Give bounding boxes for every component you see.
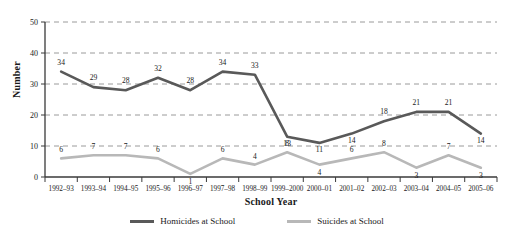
x-axis-tick-label: 1998–99 [242, 185, 268, 193]
data-label-homicides: 14 [477, 136, 485, 145]
x-axis-tick-label: 1992–93 [49, 185, 75, 193]
chart-legend: Homicides at School Suicides at School [0, 216, 514, 226]
y-axis-tick-label: 10 [30, 142, 38, 151]
x-axis-tick-label: 1999–2000 [271, 185, 304, 193]
data-label-homicides: 21 [445, 98, 453, 107]
legend-label-suicides: Suicides at School [317, 216, 384, 226]
data-label-homicides: 33 [251, 61, 259, 70]
legend-swatch-homicides [130, 220, 154, 223]
data-label-homicides: 28 [186, 76, 194, 85]
data-label-suicides: 6 [59, 145, 63, 154]
y-axis-title: Number [11, 50, 22, 110]
school-violence-line-chart: 010203040501992–931993–941994–951995–961… [0, 0, 514, 236]
data-label-suicides: 7 [92, 142, 96, 151]
data-label-suicides: 8 [382, 139, 386, 148]
data-label-homicides: 32 [154, 64, 162, 73]
x-axis-tick-label: 1995–96 [145, 185, 171, 193]
data-label-homicides: 18 [380, 107, 388, 116]
data-label-suicides: 4 [318, 168, 322, 177]
data-label-suicides: 4 [253, 152, 257, 161]
data-label-homicides: 34 [219, 58, 227, 67]
data-label-suicides: 8 [285, 139, 289, 148]
data-label-suicides: 3 [414, 171, 418, 180]
data-label-homicides: 14 [348, 136, 356, 145]
data-label-suicides: 6 [221, 145, 225, 154]
legend-swatch-suicides [287, 220, 311, 223]
x-axis-title: School Year [45, 196, 497, 207]
y-axis-tick-label: 40 [30, 49, 38, 58]
y-axis-tick-label: 0 [34, 173, 38, 182]
x-axis-tick-label: 2001–02 [339, 185, 365, 193]
data-label-homicides: 29 [90, 73, 98, 82]
x-axis-tick-label: 1997–98 [210, 185, 236, 193]
data-label-suicides: 3 [479, 171, 483, 180]
data-label-homicides: 28 [122, 76, 130, 85]
x-axis-tick-label: 1996–97 [178, 185, 204, 193]
data-label-suicides: 7 [447, 142, 451, 151]
data-label-suicides: 6 [156, 145, 160, 154]
data-label-homicides: 21 [412, 98, 420, 107]
legend-item-suicides[interactable]: Suicides at School [287, 216, 384, 226]
x-axis-tick-label: 2002–03 [371, 185, 397, 193]
legend-item-homicides[interactable]: Homicides at School [130, 216, 235, 226]
data-label-homicides: 34 [57, 58, 65, 67]
legend-label-homicides: Homicides at School [160, 216, 235, 226]
x-axis-tick-label: 2000–01 [307, 185, 333, 193]
y-axis-tick-label: 50 [30, 18, 38, 27]
data-label-suicides: 1 [188, 177, 192, 186]
data-label-suicides: 6 [350, 145, 354, 154]
x-axis-tick-label: 1994–95 [113, 185, 139, 193]
data-label-homicides: 11 [316, 145, 324, 154]
x-axis-tick-label: 2003–04 [404, 185, 430, 193]
x-axis-tick-label: 2005–06 [468, 185, 494, 193]
y-axis-tick-label: 30 [30, 80, 38, 89]
x-axis-tick-label: 1993–94 [81, 185, 107, 193]
data-label-suicides: 7 [124, 142, 128, 151]
y-axis-tick-label: 20 [30, 111, 38, 120]
x-axis-tick-label: 2004–05 [436, 185, 462, 193]
